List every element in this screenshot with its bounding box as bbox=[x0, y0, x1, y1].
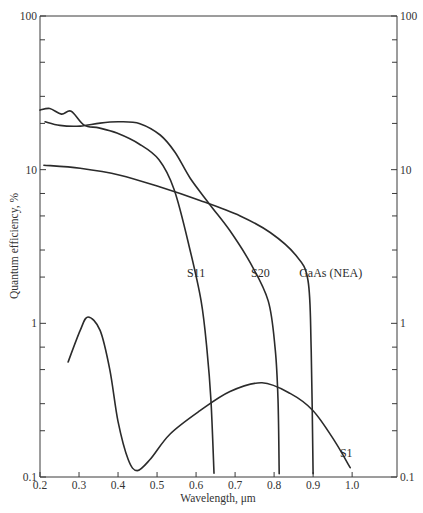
series-line-s11 bbox=[40, 108, 214, 473]
x-tick-label: 1.0 bbox=[345, 479, 360, 491]
ticks: 0.20.30.40.50.60.70.80.91.00.10.11110101… bbox=[20, 10, 418, 491]
y-tick-label-left: 100 bbox=[20, 10, 38, 22]
series-label-gaas-nea: GaAs (NEA) bbox=[299, 266, 362, 280]
series-line-s20 bbox=[45, 122, 279, 474]
series-label-s20: S20 bbox=[251, 266, 270, 280]
y-tick-label-left: 10 bbox=[26, 164, 38, 176]
x-tick-label: 0.9 bbox=[306, 479, 321, 491]
series-group bbox=[40, 108, 350, 473]
y-tick-label-right: 0.1 bbox=[400, 471, 415, 483]
y-tick-label-left: 0.1 bbox=[23, 471, 38, 483]
x-axis-label: Wavelength, μm bbox=[180, 492, 256, 505]
quantum-efficiency-chart: 0.20.30.40.50.60.70.80.91.00.10.11110101… bbox=[0, 0, 423, 513]
y-tick-label-right: 1 bbox=[400, 317, 406, 329]
x-tick-label: 0.7 bbox=[228, 479, 243, 491]
x-tick-label: 0.6 bbox=[189, 479, 204, 491]
y-axis-label: Quantum efficiency, % bbox=[8, 193, 21, 299]
series-label-s11: S11 bbox=[187, 266, 205, 280]
series-label-s1: S1 bbox=[340, 446, 353, 460]
series-line-s1 bbox=[68, 317, 350, 471]
y-tick-label-right: 10 bbox=[400, 164, 412, 176]
axes bbox=[40, 16, 397, 477]
x-tick-label: 0.4 bbox=[111, 479, 126, 491]
x-tick-label: 0.3 bbox=[72, 479, 87, 491]
x-tick-label: 0.8 bbox=[267, 479, 282, 491]
annotations: S11S20GaAs (NEA)S1 bbox=[187, 266, 362, 460]
y-tick-label-left: 1 bbox=[31, 317, 37, 329]
y-tick-label-right: 100 bbox=[400, 10, 418, 22]
x-tick-label: 0.5 bbox=[150, 479, 165, 491]
